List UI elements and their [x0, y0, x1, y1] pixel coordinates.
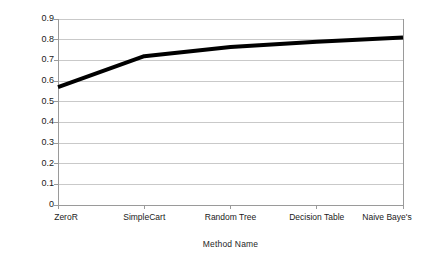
x-tick-label: Decision Table: [289, 212, 344, 222]
x-tick-label: ZeroR: [54, 212, 78, 222]
x-tick-label: Random Tree: [205, 212, 257, 222]
x-axis-title: Method Name: [58, 239, 403, 249]
x-axis-tick-labels: ZeroRSimpleCartRandom TreeDecision Table…: [0, 0, 441, 268]
recall-line-chart: Recall 0.90.80.70.60.50.40.30.20.10 Zero…: [0, 0, 441, 268]
x-tick-label: SimpleCart: [123, 212, 165, 222]
x-tick-label: Naive Baye's: [362, 212, 411, 222]
